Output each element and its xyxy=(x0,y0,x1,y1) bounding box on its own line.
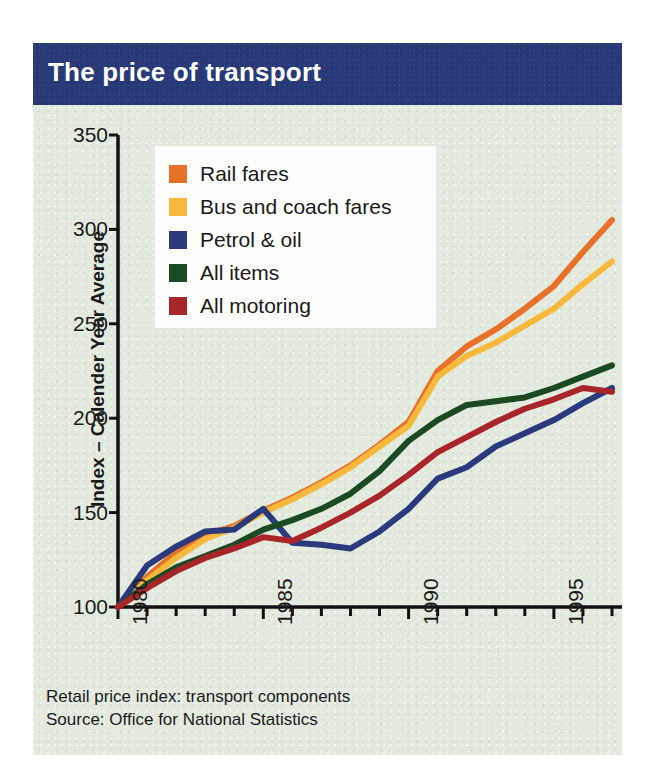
legend-swatch-icon xyxy=(169,198,187,216)
legend: Rail faresBus and coach faresPetrol & oi… xyxy=(155,146,436,328)
legend-item-label: Bus and coach fares xyxy=(200,195,391,219)
plot-area xyxy=(0,0,656,783)
series-line xyxy=(118,388,612,607)
footnote-line-1: Retail price index: transport components xyxy=(46,686,350,709)
legend-item: All items xyxy=(169,256,436,289)
legend-item: Petrol & oil xyxy=(169,223,436,256)
legend-item-label: All items xyxy=(200,261,279,285)
legend-swatch-icon xyxy=(169,297,187,315)
legend-item: All motoring xyxy=(169,289,436,322)
footnotes: Retail price index: transport components… xyxy=(46,686,350,732)
x-axis-tick-label: 1990 xyxy=(419,578,443,625)
x-axis-tick-label: 1985 xyxy=(273,578,297,625)
legend-item: Bus and coach fares xyxy=(169,190,436,223)
legend-swatch-icon xyxy=(169,264,187,282)
legend-item-label: Rail fares xyxy=(200,162,289,186)
legend-swatch-icon xyxy=(169,231,187,249)
x-axis-tick-label: 1980 xyxy=(128,578,152,625)
legend-item: Rail fares xyxy=(169,157,436,190)
series-line xyxy=(118,388,612,607)
legend-items: Rail faresBus and coach faresPetrol & oi… xyxy=(155,146,436,322)
legend-swatch-icon xyxy=(169,165,187,183)
footnote-line-2: Source: Office for National Statistics xyxy=(46,709,350,732)
chart-figure: The price of transport Index – Calender … xyxy=(0,0,656,783)
x-axis-tick-label: 1995 xyxy=(564,578,588,625)
legend-item-label: Petrol & oil xyxy=(200,228,302,252)
legend-item-label: All motoring xyxy=(200,294,311,318)
